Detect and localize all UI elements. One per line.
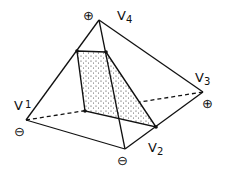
sign-v1: ⊖ [14, 124, 25, 139]
sign-v4: ⊕ [83, 8, 94, 23]
section-point [75, 49, 79, 53]
sign-v2: ⊖ [117, 153, 128, 168]
label-v4: V4 [117, 8, 132, 25]
edge-v1-v2 [26, 120, 125, 149]
label-v1: V1 [14, 98, 31, 113]
cross-section-plane [77, 51, 156, 127]
section-point [154, 125, 158, 129]
section-point [104, 50, 108, 54]
label-v2: V2 [148, 140, 163, 157]
label-v3: V3 [195, 70, 210, 87]
tetrahedron-diagram: V4 ⊕ V3 ⊕ V1 ⊖ V2 ⊖ [0, 0, 230, 180]
section-point [83, 109, 87, 113]
sign-v3: ⊕ [202, 96, 213, 111]
